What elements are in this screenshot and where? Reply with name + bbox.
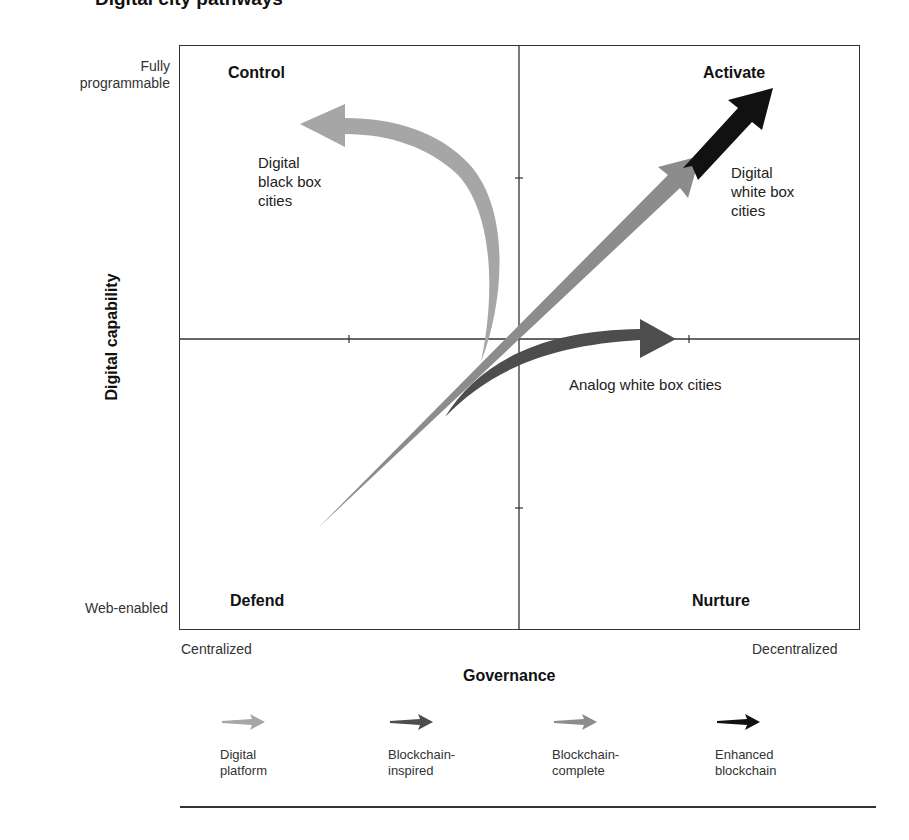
quadrant-label-nurture: Nurture [692, 592, 750, 610]
annotation-analog-white-box: Analog white box cities [569, 375, 722, 394]
quadrant-label-activate: Activate [703, 64, 765, 82]
annotation-digital-black-box: Digital black box cities [258, 153, 321, 210]
legend-item-blockchain-inspired: Blockchain- inspired [388, 713, 518, 779]
digital-platform-arrow [300, 104, 500, 362]
quadrant-label-defend: Defend [230, 592, 284, 610]
bottom-divider [180, 806, 876, 808]
legend-arrow-mid-gray-icon [552, 713, 602, 731]
legend-item-blockchain-complete: Blockchain- complete [552, 713, 682, 779]
legend-item-enhanced-blockchain: Enhanced blockchain [715, 713, 845, 779]
legend-arrow-black-icon [715, 713, 765, 731]
legend-arrow-dark-gray-icon [388, 713, 438, 731]
x-tick-left: Centralized [181, 641, 252, 657]
legend-arrow-light-gray-icon [220, 713, 270, 731]
quadrant-label-control: Control [228, 64, 285, 82]
legend-item-digital-platform: Digital platform [220, 713, 350, 779]
x-tick-right: Decentralized [752, 641, 838, 657]
x-axis-title: Governance [463, 667, 555, 685]
annotation-digital-white-box: Digital white box cities [731, 163, 794, 220]
